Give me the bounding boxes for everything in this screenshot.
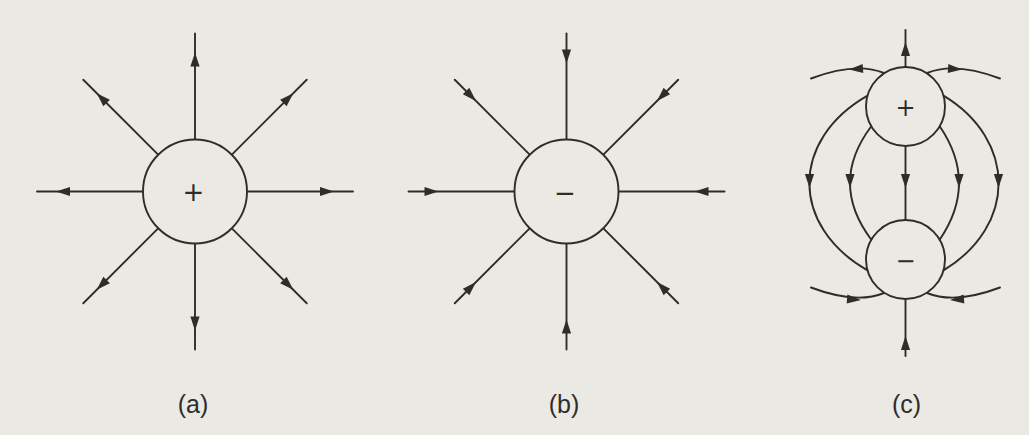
field-lines-drawing [0,0,1029,435]
panel-c-field-lines [805,30,1003,356]
plus-charge-symbol-a: + [183,179,205,205]
minus-charge-symbol-c: − [895,249,915,273]
electric-field-lines-figure: + − + − (a) (b) (c) [0,0,1029,435]
panel-label-b: (b) [549,390,580,419]
minus-charge-symbol-b: − [554,180,576,206]
panel-label-a: (a) [178,390,209,419]
panel-label-c: (c) [892,390,921,419]
plus-charge-symbol-c: + [895,96,915,120]
